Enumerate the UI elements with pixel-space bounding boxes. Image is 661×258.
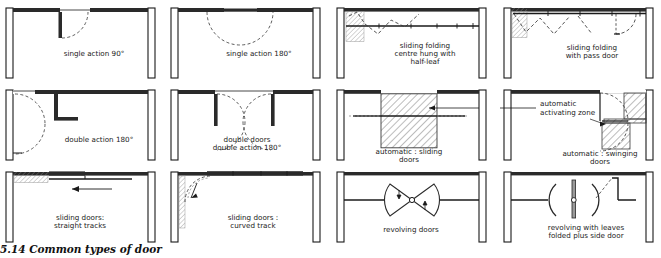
panel-automatic-sliding-doors: automatic : sliding doors [337,90,486,164]
svg-text:with pass door: with pass door [566,51,619,60]
panel-sliding-folding-pass-door: sliding folding with pass door [504,8,653,78]
panel-double-action-180: double action 180° [6,90,155,160]
svg-text:doors: doors [399,155,419,164]
slide-direction-arrow [72,186,112,192]
activating-zone-annotation: automatic activating zone [540,99,596,117]
figure-number: 5.14 [0,243,26,255]
panel-label: sliding folding centre hung with half-le… [394,41,455,66]
svg-text:double action 180°: double action 180° [65,135,134,144]
panel-sliding-folding-centre-hung: sliding folding centre hung with half-le… [337,8,486,78]
svg-text:half-leaf: half-leaf [410,57,440,66]
svg-text:single action 180°: single action 180° [226,49,291,58]
door-types-diagram: single action 90° single action 180° sli… [0,0,661,243]
panel-revolving-leaves-folded: revolving with leaves folded plus side d… [504,172,653,242]
panel-label: sliding doors : curved track [228,213,278,230]
panel-automatic-swinging-doors: automatic activating zone automatic : sw… [500,90,653,166]
panel-sliding-doors-curved-track: sliding doors : curved track [171,171,320,242]
svg-text:double action 180°: double action 180° [213,143,282,152]
panel-label: revolving doors [383,225,439,234]
svg-text:curved track: curved track [230,221,276,230]
panel-label: sliding doors: straight tracks [54,213,106,230]
svg-text:revolving doors: revolving doors [383,225,439,234]
figure-caption-text: Common types of door [29,243,161,255]
figure-sheet: single action 90° single action 180° sli… [0,0,661,258]
svg-text:straight tracks: straight tracks [54,221,106,230]
panel-sliding-doors-straight-tracks: sliding doors: straight tracks [6,171,155,242]
panel-label: automatic : swinging doors [562,149,637,166]
slide-direction-arrow [191,183,198,198]
svg-text:activating zone: activating zone [540,108,596,117]
panel-single-action-180: single action 180° [171,8,320,78]
panel-label: single action 90° [64,49,125,58]
svg-text:doors: doors [590,157,610,166]
panel-label: double action 180° [65,135,134,144]
svg-text:folded plus side door: folded plus side door [548,231,623,240]
panel-label: sliding folding with pass door [566,43,619,60]
figure-caption: 5.14 Common types of door [0,243,162,255]
panel-double-doors-double-action-180: double doors double action 180° [171,90,320,160]
panel-label: double doors double action 180° [213,135,282,152]
svg-text:automatic: automatic [540,99,576,108]
panel-single-action-90: single action 90° [6,8,155,78]
panel-label: revolving with leaves folded plus side d… [548,223,625,240]
revolving-leaf-left [384,184,412,216]
svg-text:single action 90°: single action 90° [64,49,125,58]
revolving-leaf-right [412,184,440,216]
panel-revolving-doors: revolving doors [337,172,486,242]
panel-label: automatic : sliding doors [376,147,443,164]
panel-label: single action 180° [226,49,291,58]
